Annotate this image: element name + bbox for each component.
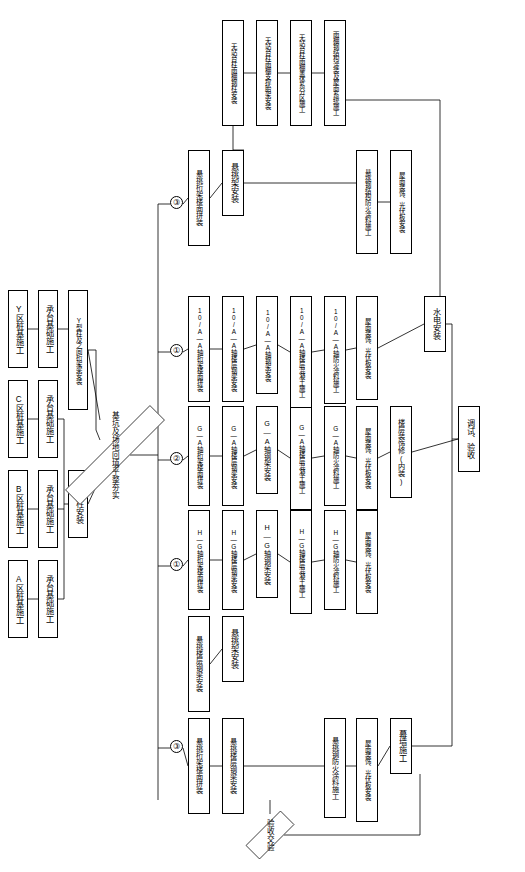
process-box: 悬挑钢结构防火涂料施工 <box>356 150 378 254</box>
decision-diamond: 基坑及场地回填平整夯实 <box>100 370 130 540</box>
process-box-label: Y区桩基施工 <box>14 305 22 354</box>
process-box-label: A区桩基施工 <box>14 575 22 624</box>
process-box: H—G轴楼层混凝土施工 <box>290 510 312 614</box>
process-box: 悬挑楼层钢梁安装 <box>188 616 210 712</box>
process-box-label: G—A轴桁架楼面拼装 <box>196 425 203 488</box>
process-box-label: 10/A—A轴桁架楼面拼装 <box>196 307 203 391</box>
process-box-label: 幕墙施工 <box>397 730 405 762</box>
process-box-label: 悬挑钢结构防火涂料施工 <box>364 169 371 235</box>
process-box-label: 无站台柱雨棚支撑胎架安装 <box>264 37 271 109</box>
process-box: 屋面装饰、光伏板安装 <box>356 406 378 510</box>
process-box: 悬挑楼层钢梁安装 <box>222 718 244 814</box>
process-box: 调试、验收 <box>458 406 480 472</box>
process-box: 屋面装饰、光伏板安装 <box>356 510 378 614</box>
process-box-label: 悬挑桁架楼面拼装 <box>195 170 202 226</box>
process-box: Y区桩基施工 <box>8 290 28 368</box>
process-box-label: 悬挑楼层钢梁安装 <box>229 738 236 794</box>
process-box: 10/A—A轴楼层钢梁安装 <box>222 296 244 402</box>
process-box-label: 无站台柱雨棚盖体系分区施工 <box>298 34 305 112</box>
sequence-marker: ① <box>170 558 183 571</box>
process-box-label: 屋面装饰、光伏板安装 <box>398 172 405 232</box>
process-box: 10/A—A轴楼层混凝土施工 <box>290 296 312 408</box>
process-box-label: 10/A—A轴钢架安装 <box>264 309 271 381</box>
process-box-label: 悬挑桁架楼面拼装 <box>195 738 202 794</box>
process-box-label: 屋面装饰、光伏板安装 <box>364 428 371 488</box>
process-box: 无站台柱雨棚钢柱安装 <box>222 20 244 126</box>
process-box-label: 屋面装饰、光伏板安装 <box>364 318 371 378</box>
process-box: 屋面装饰、光伏板安装 <box>390 150 412 254</box>
process-box-label: 悬挑楼层钢梁安装 <box>195 636 202 692</box>
sequence-marker: ① <box>170 344 183 357</box>
sequence-marker: ③ <box>170 740 183 753</box>
process-box-label: 承台基础施工 <box>44 485 52 533</box>
process-box: H—G轴桁架楼面拼装 <box>188 510 210 610</box>
process-box: 承台基础施工 <box>38 290 58 368</box>
process-box-label: 悬挑架安装 <box>229 163 237 203</box>
decision-diamond-label: 基坑及场地回填平整夯实 <box>111 411 119 499</box>
process-box-label: 无站台柱雨棚钢柱安装 <box>230 43 237 103</box>
process-box: 水电安装 <box>424 296 446 352</box>
process-box-label: 屋面装饰、光伏板安装 <box>364 532 371 592</box>
process-box-label: 承台基础施工 <box>44 395 52 443</box>
process-box: 雨棚钢结构涂装及屋面系统施工 <box>324 20 346 126</box>
process-box-label: 承台基础施工 <box>44 575 52 623</box>
process-box-label: G—A轴楼层钢梁安装 <box>230 425 237 488</box>
process-box: 悬挑架安装 <box>222 150 244 216</box>
flowchart-canvas: A区桩基施工承台基础施工B区桩基施工承台基础施工C区桩基施工承台基础施工Y区桩基… <box>0 0 525 872</box>
process-box: H—G轴楼层钢梁安装 <box>222 510 244 610</box>
process-box: H—G轴钢架安装 <box>256 510 278 598</box>
process-box-label: 悬挑架安装 <box>229 629 237 669</box>
process-box: 承台基础施工 <box>38 470 58 548</box>
process-box-label: 水电安装 <box>431 308 439 340</box>
process-box: 10/A—A轴钢架安装 <box>256 296 278 394</box>
process-box: 屋面装饰、光伏板安装 <box>356 296 378 400</box>
process-box-label: H—G轴防火涂料施工 <box>332 529 339 592</box>
process-box-label: H—G轴钢架安装 <box>263 523 270 585</box>
process-box: G—A轴楼层钢梁安装 <box>222 406 244 506</box>
process-box: 幕墙施工 <box>390 718 412 774</box>
process-box-label: C区桩基施工 <box>14 395 22 444</box>
process-box-label: 楼层装饰修(内装) <box>397 419 404 486</box>
process-box-label: G—A轴防火涂料施工 <box>332 425 339 488</box>
process-box-label: H—G轴楼层钢梁安装 <box>230 529 237 592</box>
process-box-label: 调试、验收 <box>465 419 473 459</box>
process-box-label: 10/A—A轴楼层钢梁安装 <box>230 307 237 391</box>
decision-diamond: 验收交验 <box>256 800 284 870</box>
process-box: 承台基础施工 <box>38 380 58 458</box>
process-box-label: 承台基础施工 <box>44 305 52 353</box>
process-box: A区桩基施工 <box>8 560 28 638</box>
process-box: 楼层装饰修(内装) <box>390 406 412 498</box>
process-box-label: H—G轴楼层混凝土施工 <box>298 528 305 597</box>
process-box-label: G—A轴钢架安装 <box>263 419 270 481</box>
process-box-label: Y型柱及之间桁架梁安装 <box>75 317 82 384</box>
process-box: 悬挑架安装 <box>222 616 244 682</box>
process-box-label: 10/A—A轴楼层混凝土施工 <box>298 307 305 397</box>
process-box: 悬挑桁架楼面拼装 <box>188 718 210 814</box>
process-box: H—G轴防火涂料施工 <box>324 510 346 610</box>
process-box: 10/A—A轴防火涂料施工 <box>324 296 346 404</box>
process-box: G—A轴桁架楼面拼装 <box>188 406 210 506</box>
process-box: G—A轴防火涂料施工 <box>324 406 346 506</box>
sequence-marker: ③ <box>170 196 183 209</box>
process-box: G—A轴钢架安装 <box>256 406 278 494</box>
process-box: Y型柱及之间桁架梁安装 <box>68 290 88 410</box>
process-box: 无站台柱雨棚支撑胎架安装 <box>256 20 278 126</box>
process-box: G—A轴楼层混凝土施工 <box>290 406 312 510</box>
process-box: 无站台柱雨棚盖体系分区施工 <box>290 20 312 126</box>
process-box-label: 悬挑钢防火涂料施工 <box>331 737 338 800</box>
process-box: B区桩基施工 <box>8 470 28 548</box>
process-box: C区桩基施工 <box>8 380 28 458</box>
decision-diamond-label: 验收交验 <box>266 819 274 851</box>
process-box: 悬挑钢防火涂料施工 <box>324 718 346 818</box>
process-box-label: G—A轴楼层混凝土施工 <box>298 424 305 493</box>
sequence-marker: ② <box>170 452 183 465</box>
process-box: 10/A—A轴桁架楼面拼装 <box>188 296 210 402</box>
process-box-label: 雨棚钢结构涂装及屋面系统施工 <box>332 31 339 115</box>
process-box-label: 屋面装饰、光伏板安装 <box>364 740 371 800</box>
process-box-label: H—G轴桁架楼面拼装 <box>196 529 203 592</box>
process-box: 悬挑桁架楼面拼装 <box>188 150 210 246</box>
process-box: 屋面装饰、光伏板安装 <box>356 718 378 822</box>
process-box-label: 10/A—A轴防火涂料施工 <box>332 308 339 392</box>
process-box: 承台基础施工 <box>38 560 58 638</box>
process-box-label: B区桩基施工 <box>14 485 22 534</box>
